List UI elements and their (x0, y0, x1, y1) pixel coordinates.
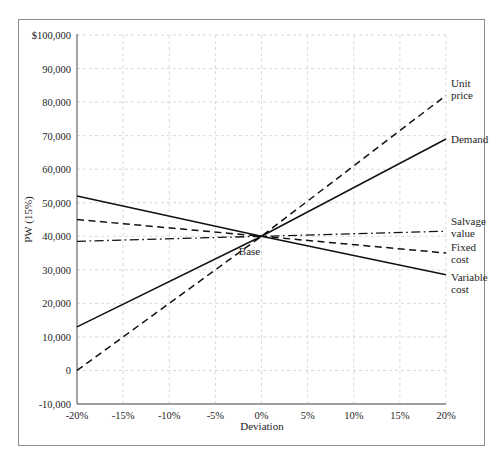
y-axis-title: PW (15%) (22, 196, 35, 243)
sensitivity-chart: $100,00090,00080,00070,00060,00050,00040… (0, 0, 503, 460)
x-tick-label: -15% (112, 410, 135, 421)
series-label-fixed-cost: Fixed (451, 241, 477, 253)
series-label-variable-cost: Variable (451, 271, 488, 283)
y-tick-label: 0 (66, 365, 71, 376)
y-tick-label: 10,000 (42, 332, 71, 343)
y-axis-tick-labels: $100,00090,00080,00070,00060,00050,00040… (32, 30, 71, 410)
y-tick-label: 50,000 (42, 198, 71, 209)
series-label-unit-price: Unit (451, 77, 471, 89)
series-label-demand: Demand (451, 133, 489, 145)
y-tick-label: 20,000 (42, 298, 71, 309)
x-tick-label: -20% (66, 410, 89, 421)
x-tick-label: 20% (436, 410, 456, 421)
x-tick-label: -5% (207, 410, 225, 421)
x-axis-title: Deviation (240, 420, 284, 432)
series-label-variable-cost: cost (451, 283, 469, 295)
y-tick-label: 40,000 (42, 231, 71, 242)
y-tick-label: -10,000 (39, 399, 71, 410)
y-tick-label: 70,000 (42, 131, 71, 142)
series-label-unit-price: price (451, 89, 473, 101)
series-label-salvage-value: value (451, 227, 475, 239)
y-tick-label: 80,000 (42, 97, 71, 108)
y-tick-label: $100,000 (32, 30, 71, 41)
y-tick-label: 90,000 (42, 64, 71, 75)
series-label-salvage-value: Salvage (451, 215, 486, 227)
x-tick-label: 10% (344, 410, 364, 421)
x-tick-label: 15% (390, 410, 410, 421)
x-tick-label: 5% (301, 410, 315, 421)
base-point-label: Base (239, 245, 261, 257)
series-label-fixed-cost: cost (451, 253, 469, 265)
x-tick-label: -10% (158, 410, 181, 421)
y-tick-label: 60,000 (42, 164, 71, 175)
y-tick-label: 30,000 (42, 265, 71, 276)
gridlines (77, 35, 446, 404)
series-labels: UnitpriceDemandSalvagevalueFixedcostVari… (451, 77, 489, 294)
